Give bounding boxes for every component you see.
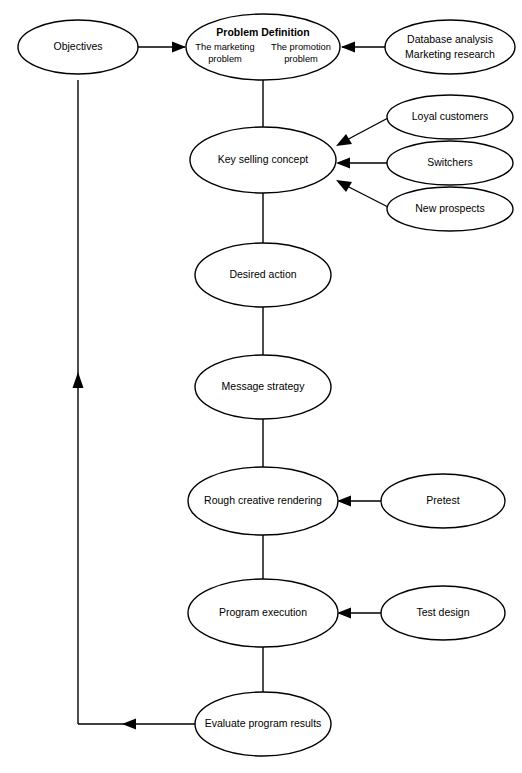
node-desired-action-label: Desired action [229,268,296,280]
node-research[interactable]: Database analysis Marketing research [385,20,515,74]
connector-switchers-to-key-selling [336,158,388,169]
node-key-selling-concept[interactable]: Key selling concept [190,127,336,193]
node-problem-definition[interactable]: Problem Definition The marketing problem… [186,14,340,80]
connector-testdesign-to-program [337,608,381,619]
node-research-line2: Marketing research [405,48,495,60]
node-test-design-label: Test design [416,606,469,618]
node-pretest-label: Pretest [426,494,459,506]
node-rough-creative-rendering-label: Rough creative rendering [204,494,322,506]
node-program-execution-label: Program execution [219,606,307,618]
node-problem-definition-marketing-line2: problem [208,54,242,64]
diagram-canvas: Objectives Problem Definition The market… [0,0,522,773]
node-message-strategy[interactable]: Message strategy [195,355,331,419]
node-message-strategy-label: Message strategy [222,380,306,392]
node-program-execution[interactable]: Program execution [188,579,338,647]
node-rough-creative-rendering[interactable]: Rough creative rendering [188,467,338,535]
node-objectives[interactable]: Objectives [18,20,138,74]
node-switchers[interactable]: Switchers [387,141,513,185]
node-loyal-customers[interactable]: Loyal customers [387,95,513,139]
node-key-selling-concept-label: Key selling concept [218,153,309,165]
connector-pretest-to-rough [337,496,381,507]
connector-loyal-to-key-selling [336,118,388,146]
node-test-design[interactable]: Test design [381,586,505,640]
connector-feedback-loop [73,80,197,730]
node-problem-definition-promotion-line2: problem [284,54,318,64]
connector-prospects-to-key-selling [336,180,388,207]
node-evaluate-program-results[interactable]: Evaluate program results [195,692,331,756]
node-problem-definition-title: Problem Definition [216,26,309,38]
connector-research-to-problem [341,42,388,53]
node-new-prospects[interactable]: New prospects [387,187,513,231]
flow-diagram: Objectives Problem Definition The market… [0,0,522,773]
node-switchers-label: Switchers [427,156,473,168]
node-problem-definition-marketing-line1: The marketing [195,42,254,52]
node-loyal-customers-label: Loyal customers [412,110,488,122]
connector-objectives-to-problem [137,42,186,53]
node-evaluate-program-results-label: Evaluate program results [205,717,322,729]
node-new-prospects-label: New prospects [415,202,484,214]
node-objectives-label: Objectives [53,40,102,52]
node-problem-definition-promotion-line1: The promotion [271,42,331,52]
node-research-line1: Database analysis [407,33,493,45]
node-desired-action[interactable]: Desired action [195,243,331,307]
node-pretest[interactable]: Pretest [381,474,505,528]
